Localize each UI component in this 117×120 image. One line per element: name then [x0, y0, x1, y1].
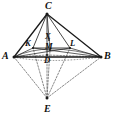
vertex-label-E: E — [44, 104, 51, 114]
vertex-label-K: K — [25, 39, 31, 48]
edge-CA — [14, 14, 47, 57]
vertex-label-M: M — [45, 42, 53, 51]
vertex-label-D: D — [44, 56, 50, 65]
vertex-dot-C — [46, 13, 49, 16]
figure-canvas — [0, 0, 117, 120]
vertex-label-A: A — [2, 51, 9, 61]
solid-edge-layer — [14, 14, 101, 57]
vertex-label-B: B — [104, 51, 111, 61]
geometry-figure: CABEDKLMX — [0, 0, 117, 120]
vertex-dot-K — [32, 47, 34, 49]
vertex-label-X: X — [45, 32, 51, 41]
vertex-dot-E — [46, 97, 49, 100]
dashed-edge-EA — [14, 57, 47, 98]
vertex-dot-B — [100, 56, 103, 59]
vertex-dot-A — [13, 56, 16, 59]
dashed-edge-EB — [47, 57, 101, 98]
vertex-label-L: L — [70, 39, 75, 48]
vertex-label-C: C — [45, 1, 52, 11]
